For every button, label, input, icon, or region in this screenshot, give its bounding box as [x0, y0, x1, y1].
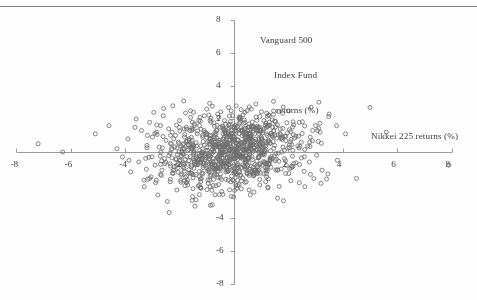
y-axis-label: Vanguard 500 Index Fund returns (%) — [260, 12, 319, 140]
y-tick-label: 2 — [216, 113, 221, 123]
x-tick-label: 6 — [391, 159, 396, 169]
x-axis-label: Nikkei 225 returns (%) — [371, 131, 458, 143]
y-tick-label: 4 — [216, 80, 221, 90]
x-tick-label: 2 — [282, 159, 287, 169]
x-tick-label: -2 — [174, 159, 182, 169]
y-tick-label: -6 — [216, 245, 224, 255]
y-tick-label: 8 — [216, 14, 221, 24]
y-axis-label-line-3: returns (%) — [260, 105, 319, 117]
y-tick-label: -8 — [216, 278, 224, 288]
x-tick-label: 4 — [337, 159, 342, 169]
scatterplot-figure: Vanguard 500 Index Fund returns (%) Nikk… — [0, 0, 477, 300]
x-tick-label: 8 — [446, 159, 451, 169]
y-axis-label-line-2: Index Fund — [260, 70, 319, 82]
y-tick-label: 6 — [216, 47, 221, 57]
x-tick-label: -4 — [119, 159, 127, 169]
x-tick-label: -6 — [65, 159, 73, 169]
y-tick-label: -4 — [216, 212, 224, 222]
scatter-plot-canvas — [0, 0, 477, 300]
y-axis-label-line-1: Vanguard 500 — [260, 35, 319, 47]
x-tick-label: -8 — [10, 159, 18, 169]
